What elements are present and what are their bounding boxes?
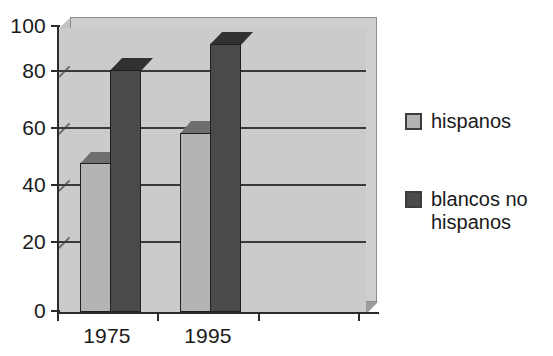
y-tick-label-0: 0 xyxy=(0,300,46,321)
x-axis-line xyxy=(57,312,379,314)
y-tick-mark-40 xyxy=(51,184,60,186)
y-tick-label-80: 80 xyxy=(0,60,46,81)
bar-chart: 100 80 60 40 20 0 1975 1995 hispanos bla… xyxy=(0,0,553,356)
legend-label-blancos-no-hispanos: blancos no hispanos xyxy=(431,188,528,234)
legend-swatch-hispanos-icon xyxy=(405,113,422,130)
y-tick-label-100: 100 xyxy=(0,15,46,36)
bar-front-face xyxy=(180,133,211,312)
legend-swatch-blancos-no-hispanos-icon xyxy=(405,191,422,208)
x-tick-label-1975: 1975 xyxy=(67,325,147,346)
x-tick-label-1995: 1995 xyxy=(168,325,248,346)
x-tick-mark-1 xyxy=(157,312,159,321)
bar-front-face xyxy=(80,163,111,312)
bar-front-face xyxy=(110,70,141,312)
y-tick-mark-100 xyxy=(51,25,60,27)
y-tick-label-40: 40 xyxy=(0,174,46,195)
bar-front-face xyxy=(210,44,241,312)
x-tick-mark-3 xyxy=(358,312,360,321)
legend-item-hispanos: hispanos xyxy=(405,110,511,133)
y-tick-mark-60 xyxy=(51,127,60,129)
y-tick-mark-80 xyxy=(51,70,60,72)
y-axis-line xyxy=(57,25,59,312)
y-tick-mark-20 xyxy=(51,241,60,243)
y-tick-label-20: 20 xyxy=(0,231,46,252)
legend-label-hispanos: hispanos xyxy=(431,110,511,133)
x-tick-mark-2 xyxy=(258,312,260,321)
x-tick-mark-0 xyxy=(57,312,59,321)
legend-item-blancos-no-hispanos: blancos no hispanos xyxy=(405,188,528,234)
y-tick-label-60: 60 xyxy=(0,117,46,138)
